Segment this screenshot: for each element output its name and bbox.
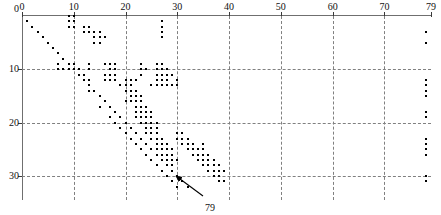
annotation-label: 79 <box>205 203 215 213</box>
annotation-arrow <box>0 0 441 215</box>
spy-plot-figure: 01020304050607079 0102030 79 <box>0 0 441 215</box>
